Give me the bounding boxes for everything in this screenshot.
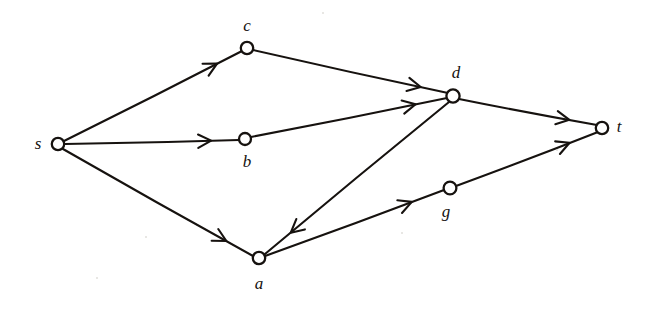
node-t[interactable] bbox=[596, 122, 608, 134]
edge-s-b bbox=[65, 140, 239, 144]
paper-speck bbox=[96, 277, 98, 279]
edge-b-d bbox=[251, 98, 447, 137]
node-a[interactable] bbox=[253, 252, 265, 264]
node-s[interactable] bbox=[52, 138, 64, 150]
node-label-s: s bbox=[35, 135, 42, 152]
node-label-t: t bbox=[617, 118, 622, 135]
node-label-c: c bbox=[243, 17, 251, 34]
node-label-d: d bbox=[452, 64, 461, 81]
edge-a-g bbox=[265, 190, 444, 256]
graph-figure: scbadgt bbox=[0, 0, 646, 311]
node-d[interactable] bbox=[446, 89, 459, 102]
arrowheads-group bbox=[198, 64, 570, 241]
nodes-group bbox=[52, 42, 608, 264]
node-label-g: g bbox=[442, 203, 451, 220]
graph-canvas bbox=[0, 0, 646, 311]
edges-group bbox=[63, 50, 598, 256]
paper-speck bbox=[145, 236, 147, 238]
node-label-a: a bbox=[255, 275, 264, 292]
edge-d-t bbox=[459, 99, 597, 125]
paper-speck bbox=[556, 149, 558, 151]
paper-speck bbox=[401, 232, 403, 234]
node-b[interactable] bbox=[239, 133, 251, 145]
node-c[interactable] bbox=[241, 42, 253, 54]
paper-speck bbox=[322, 12, 324, 14]
node-g[interactable] bbox=[444, 182, 457, 195]
node-label-b: b bbox=[243, 153, 252, 170]
edge-d-a bbox=[265, 102, 449, 254]
edge-g-t bbox=[456, 132, 598, 186]
